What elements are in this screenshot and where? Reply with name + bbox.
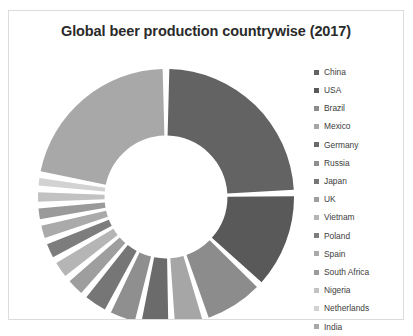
legend-item-label: Russia [324,159,350,167]
legend-swatch-icon [314,124,319,129]
legend-item[interactable]: Germany [314,136,404,154]
doughnut-chart-plot [9,47,294,319]
legend-item[interactable]: Mexico [314,118,404,136]
legend-item-label: Germany [324,141,358,149]
chart-title: Global beer production countrywise (2017… [9,23,403,39]
legend-swatch-icon [314,306,319,311]
legend-item-label: South Africa [324,268,369,276]
legend-item-label: Japan [324,177,347,185]
legend-item-label: Nigeria [324,286,351,294]
legend-swatch-icon [314,233,319,238]
legend-swatch-icon [314,324,319,329]
legend-item[interactable]: South Africa [314,263,404,281]
legend-item-label: Spain [324,250,345,258]
legend-item-label: USA [324,86,341,94]
legend-swatch-icon [314,70,319,75]
legend-item[interactable]: China [314,63,404,81]
doughnut-slice[interactable] [168,69,294,193]
legend-item[interactable]: Poland [314,227,404,245]
legend-item[interactable]: Netherlands [314,299,404,317]
chart-container: Global beer production countrywise (2017… [8,10,404,320]
legend-item[interactable]: Nigeria [314,281,404,299]
legend-item[interactable]: Russia [314,154,404,172]
legend-item[interactable]: Vietnam [314,209,404,227]
doughnut-slice[interactable] [38,192,105,201]
doughnut-svg [9,47,294,319]
legend-item-label: China [324,68,346,76]
legend-item[interactable]: UK [314,190,404,208]
legend-swatch-icon [314,215,319,220]
legend-swatch-icon [314,288,319,293]
legend-item-label: Mexico [324,122,351,130]
legend-item-label: UK [324,195,336,203]
legend-item[interactable]: USA [314,81,404,99]
legend-swatch-icon [314,270,319,275]
legend-swatch-icon [314,142,319,147]
legend-swatch-icon [314,179,319,184]
legend-swatch-icon [314,197,319,202]
legend-item[interactable]: Brazil [314,99,404,117]
legend-swatch-icon [314,161,319,166]
chart-legend: ChinaUSABrazilMexicoGermanyRussiaJapanUK… [314,63,404,336]
legend-swatch-icon [314,106,319,111]
legend-item-label: India [324,323,342,331]
legend-item-label: Vietnam [324,213,355,221]
doughnut-slice[interactable] [41,69,165,185]
legend-item-label: Netherlands [324,304,369,312]
legend-item[interactable]: Spain [314,245,404,263]
legend-swatch-icon [314,251,319,256]
legend-item[interactable]: Japan [314,172,404,190]
doughnut-slices [38,69,294,319]
legend-swatch-icon [314,88,319,93]
legend-item-label: Brazil [324,104,345,112]
legend-item[interactable]: India [314,318,404,336]
legend-item-label: Poland [324,232,350,240]
